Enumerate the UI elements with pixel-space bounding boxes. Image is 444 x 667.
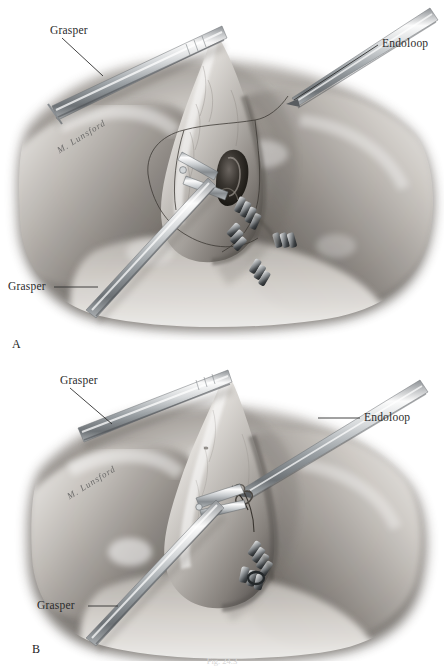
panel-a: Grasper Endoloop Grasper M. Lunsford A (0, 0, 444, 340)
endoloop-applicator (286, 8, 438, 108)
callout-endoloop-a: Endoloop (382, 38, 428, 50)
figure-caption: Fig. 24.3 (0, 657, 444, 667)
callout-grasper-top-a: Grasper (50, 25, 88, 37)
callout-grasper-bottom-b: Grasper (37, 600, 75, 612)
panel-b-illustration (0, 340, 444, 661)
callout-grasper-bottom-a: Grasper (8, 281, 46, 293)
callout-grasper-top-b: Grasper (60, 375, 98, 387)
panel-b: Grasper Endoloop Grasper M. Lunsford B (0, 340, 444, 661)
panel-letter-b: B (32, 643, 40, 655)
callout-endoloop-b: Endoloop (364, 412, 410, 424)
panel-a-illustration (0, 0, 444, 340)
